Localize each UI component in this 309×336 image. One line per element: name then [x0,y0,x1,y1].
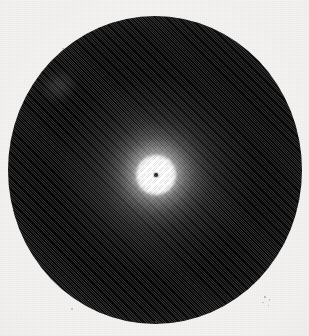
dust-speck [269,299,270,301]
diffraction-plate-figure: Circular photographic plate showing a br… [0,0,309,336]
dust-speck [268,305,269,306]
dust-speck [155,321,157,323]
exposure-disc [8,16,302,324]
dust-speck [262,302,264,303]
dust-speck [88,300,89,301]
beam-stop-dot [154,173,158,177]
dust-speck [71,308,73,310]
core-speck-icon [168,160,170,162]
dust-speck [62,48,64,49]
dust-speck [264,296,266,298]
